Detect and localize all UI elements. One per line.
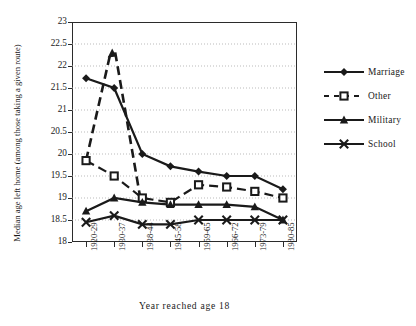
- y-axis-tick-label: 18.5: [51, 215, 67, 224]
- x-axis-tick-label: 1966-72: [231, 222, 240, 251]
- data-point-other: [111, 172, 118, 179]
- x-axis-tick-label: 1920-29: [90, 222, 99, 251]
- data-point-other: [195, 181, 202, 188]
- data-point-marriage: [138, 150, 146, 158]
- y-axis-tick-mark: [68, 154, 72, 155]
- x-axis-tick-label: 1973-79: [259, 222, 268, 251]
- legend-label: School: [366, 139, 396, 149]
- legend-item-school[interactable]: School: [322, 132, 414, 156]
- legend-label: Marriage: [366, 67, 405, 77]
- y-axis-tick-mark: [68, 220, 72, 221]
- data-point-other: [223, 183, 230, 190]
- data-point-marriage: [279, 185, 287, 193]
- plot-area: 1818.51919.52020.52121.52222.5231920-291…: [72, 22, 297, 242]
- y-axis-tick-mark: [68, 242, 72, 243]
- y-axis-tick-label: 21: [58, 105, 67, 114]
- legend-label: Military: [366, 115, 401, 125]
- legend-symbol-marriage-icon: [322, 65, 366, 79]
- x-axis-tick-label: 1959-65: [203, 222, 212, 251]
- data-point-other: [279, 194, 286, 201]
- x-axis-tick-mark: [114, 242, 115, 247]
- legend-symbol-other-icon: [322, 89, 366, 103]
- x-axis-tick-mark: [86, 242, 87, 247]
- y-axis-tick-label: 22: [58, 61, 67, 70]
- x-axis-tick-mark: [199, 242, 200, 247]
- y-axis-title: Median age left home (among those taking…: [8, 30, 26, 255]
- x-axis-tick-mark: [255, 242, 256, 247]
- y-axis-title-text: Median age left home (among those taking…: [12, 44, 22, 241]
- legend-symbol-school-icon: [322, 137, 366, 151]
- y-axis-tick-mark: [68, 132, 72, 133]
- y-axis-tick-label: 22.5: [51, 39, 67, 48]
- legend-label: Other: [366, 91, 391, 101]
- y-axis-tick-mark: [68, 198, 72, 199]
- y-axis-tick-label: 19: [58, 193, 67, 202]
- legend-item-other[interactable]: Other: [322, 84, 414, 108]
- y-axis-tick-mark: [68, 22, 72, 23]
- y-axis-tick-mark: [68, 44, 72, 45]
- y-axis-tick-mark: [68, 66, 72, 67]
- x-axis-tick-label: 1945-58: [174, 222, 183, 251]
- x-axis-tick-label: 1980-85: [287, 222, 296, 251]
- series-other-spike-down: [115, 52, 140, 198]
- x-axis-tick-mark: [142, 242, 143, 247]
- data-point-marriage: [110, 84, 118, 92]
- y-axis-tick-label: 20: [58, 149, 67, 158]
- series-line-other: [86, 161, 283, 203]
- y-axis-tick-mark: [68, 110, 72, 111]
- y-axis-tick-label: 21.5: [51, 83, 67, 92]
- data-point-marriage: [82, 74, 90, 82]
- data-point-other: [82, 157, 89, 164]
- y-axis-tick-mark: [68, 176, 72, 177]
- legend-symbol-military-icon: [322, 113, 366, 127]
- chart-figure: Median age left home (among those taking…: [0, 0, 416, 326]
- x-axis-tick-label: 1930-37: [118, 222, 127, 251]
- x-axis-title: Year reached age 18: [72, 300, 297, 311]
- data-point-other: [251, 188, 258, 195]
- data-point-marriage: [251, 172, 259, 180]
- x-axis-tick-mark: [283, 242, 284, 247]
- y-axis-tick-mark: [68, 88, 72, 89]
- x-axis-tick-mark: [227, 242, 228, 247]
- data-point-marriage: [166, 162, 174, 170]
- legend-item-marriage[interactable]: Marriage: [322, 60, 414, 84]
- data-point-marriage: [223, 172, 231, 180]
- x-axis-tick-mark: [170, 242, 171, 247]
- series-other-spike-up: [86, 54, 110, 160]
- y-axis-tick-label: 19.5: [51, 171, 67, 180]
- chart-legend: MarriageOtherMilitarySchool: [322, 60, 414, 156]
- x-axis-tick-label: 1938-44: [146, 222, 155, 251]
- y-axis-tick-label: 18: [58, 237, 67, 246]
- data-point-marriage: [195, 168, 203, 176]
- legend-item-military[interactable]: Military: [322, 108, 414, 132]
- y-axis-tick-label: 23: [58, 17, 67, 26]
- y-axis-tick-label: 20.5: [51, 127, 67, 136]
- chart-canvas: [72, 22, 297, 242]
